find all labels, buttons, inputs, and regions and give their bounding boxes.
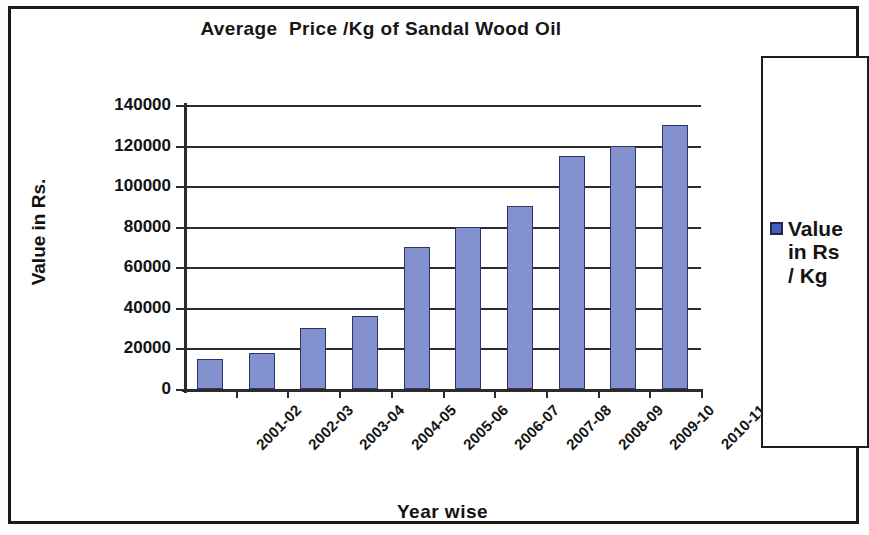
x-axis-category-label: 2008-09	[614, 401, 666, 453]
y-axis-tick-label: 80000	[61, 217, 171, 237]
y-axis-tick-label: 40000	[61, 298, 171, 318]
x-axis-category-label: 2003-04	[356, 401, 408, 453]
x-axis-tick	[339, 389, 341, 398]
y-axis-tick-label: 120000	[61, 136, 171, 156]
x-axis-tick	[598, 389, 600, 398]
x-axis-title: Year wise	[184, 501, 701, 523]
x-axis-category-label: 2006-07	[511, 401, 563, 453]
bar	[559, 156, 585, 389]
x-axis-category-label: 2005-06	[459, 401, 511, 453]
y-axis-tick-labels: 140000120000100000800006000040000200000	[53, 9, 171, 535]
legend-box: Value in Rs / Kg	[761, 56, 869, 448]
plot-area	[184, 105, 701, 389]
bar	[610, 146, 636, 389]
bar	[249, 353, 275, 390]
bar	[507, 206, 533, 389]
x-axis-tick	[443, 389, 445, 398]
bar	[455, 227, 481, 389]
x-axis-tick	[391, 389, 393, 398]
legend-swatch-icon	[770, 222, 783, 235]
y-axis-tick	[176, 227, 185, 229]
x-axis-tick	[236, 389, 238, 398]
x-axis-tick	[287, 389, 289, 398]
x-axis-category-label: 2004-05	[407, 401, 459, 453]
y-axis-tick	[176, 389, 185, 391]
legend-label: Value in Rs / Kg	[788, 217, 843, 288]
x-axis-category-label: 2002-03	[304, 401, 356, 453]
x-axis-tick	[546, 389, 548, 398]
x-axis-category-label: 2007-08	[563, 401, 615, 453]
y-axis-tick	[176, 308, 185, 310]
bar	[404, 247, 430, 389]
y-axis-tick-label: 0	[61, 379, 171, 399]
y-axis-tick	[176, 348, 185, 350]
y-axis-tick-label: 20000	[61, 338, 171, 358]
x-axis-category-label: 2001-02	[252, 401, 304, 453]
legend-entry: Value in Rs / Kg	[763, 217, 843, 288]
gridline	[184, 105, 701, 107]
bar	[300, 328, 326, 389]
y-axis-tick-label: 140000	[61, 95, 171, 115]
y-axis-title: Value in Rs.	[28, 152, 50, 312]
y-axis-tick-label: 60000	[61, 257, 171, 277]
y-axis-tick-label: 100000	[61, 176, 171, 196]
y-axis-tick	[176, 186, 185, 188]
bar	[352, 316, 378, 389]
x-axis-category-label: 2009-10	[666, 401, 718, 453]
y-axis-tick	[176, 105, 185, 107]
x-axis-tick	[649, 389, 651, 398]
bar	[197, 359, 223, 389]
x-axis-tick	[701, 389, 703, 398]
x-axis-tick	[494, 389, 496, 398]
bar	[662, 125, 688, 389]
y-axis-tick	[176, 146, 185, 148]
page-frame: Average Price /Kg of Sandal Wood Oil 140…	[8, 6, 859, 524]
y-axis-tick	[176, 267, 185, 269]
